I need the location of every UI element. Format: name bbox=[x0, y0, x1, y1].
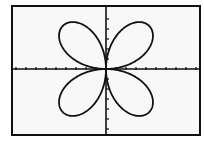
polar-rose-plot bbox=[0, 0, 204, 148]
